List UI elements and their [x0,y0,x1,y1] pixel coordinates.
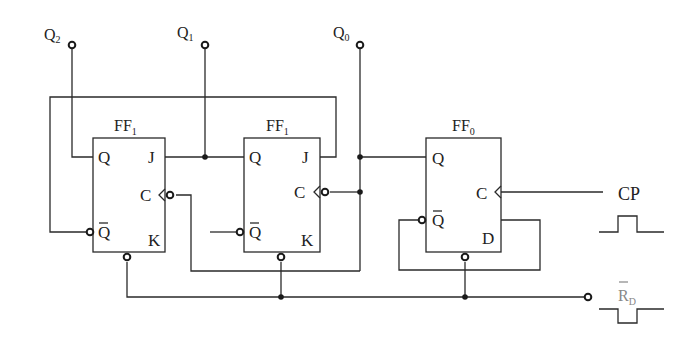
circuit-diagram: Q J C Q K Q J C Q K Q C Q D FF1 FF1 FF0 [0,0,698,346]
terminal-q0 [357,42,364,49]
ff-title-left: FF1 [114,117,137,137]
inversion-bubble-icon [87,229,94,236]
pin-c: C [140,186,151,205]
reset-pulse-waveform-icon [599,309,664,323]
pin-qbar: Q [432,211,444,230]
inversion-bubble-icon [124,254,131,261]
label-cp: CP [618,184,640,204]
ff-title-mid: FF1 [266,117,289,137]
pin-q: Q [249,148,261,167]
ff-title-ff0: FF0 [452,117,475,137]
terminal-q2 [69,42,76,49]
pin-qbar: Q [249,223,261,242]
junction-dot [357,189,363,195]
inversion-bubble-icon [462,254,469,261]
label-q0: Q0 [333,24,350,43]
pin-d: D [482,229,494,248]
junction-dot [278,294,284,300]
pin-q: Q [98,148,110,167]
pin-k: K [301,231,314,250]
inversion-bubble-icon [322,189,329,196]
inversion-bubble-icon [237,229,244,236]
flip-flop-ff0: Q C Q D [426,138,501,252]
inversion-bubble-icon [419,217,426,224]
pin-c: C [294,183,305,202]
terminal-q1 [202,42,209,49]
clock-pulse-waveform-icon [599,216,664,232]
junction-dot [202,154,208,160]
flip-flop-ff1-mid: Q J C Q K [244,138,320,252]
flip-flop-ff1-left: Q J C Q K [93,138,165,252]
label-q1: Q1 [177,24,194,43]
inversion-bubble-icon [278,254,285,261]
pin-j: J [148,148,155,167]
label-reset: RD [618,287,636,307]
wire-q2 [72,48,93,157]
label-q2: Q2 [44,26,61,45]
pin-c: C [476,184,487,203]
pin-qbar: Q [98,223,110,242]
junction-dot [357,154,363,160]
wire-reset-left [127,262,584,297]
junction-dot [462,294,468,300]
terminal-reset [585,294,592,301]
pin-q: Q [432,149,444,168]
pin-k: K [148,231,161,250]
inversion-bubble-icon [167,192,174,199]
pin-j: J [302,148,309,167]
